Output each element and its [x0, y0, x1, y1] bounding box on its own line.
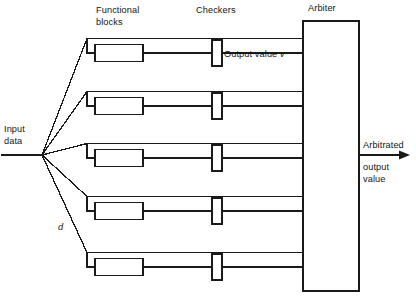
checker-4 — [212, 198, 222, 224]
arbiter-box — [303, 21, 359, 291]
functional-block-3 — [95, 150, 143, 167]
output-arrowhead — [399, 150, 410, 159]
checker-5 — [212, 254, 222, 280]
label-arbitrated: Arbitrated — [363, 140, 404, 152]
fanout-line-1 — [42, 39, 87, 156]
checker-2 — [212, 93, 222, 119]
checker-1 — [212, 40, 222, 66]
label-output-value: Output value v — [224, 49, 285, 61]
functional-block-4 — [95, 203, 143, 220]
label-distance-d: d — [58, 222, 63, 234]
fanout-line-5 — [42, 155, 87, 253]
functional-block-5 — [95, 259, 143, 276]
output-value-symbol: v — [280, 49, 285, 59]
output-value-text: Output value — [224, 49, 280, 59]
diagram-svg — [0, 0, 416, 304]
functional-block-1 — [95, 45, 143, 62]
arbitrated-output-line: output — [363, 162, 389, 172]
functional-block-2 — [95, 98, 143, 115]
figure-canvas: Functional blocks Checkers Arbiter Input… — [0, 0, 416, 304]
label-input-data: Input data — [4, 124, 25, 147]
label-checkers: Checkers — [196, 5, 236, 17]
label-functional-blocks: Functional blocks — [96, 5, 139, 28]
label-arbiter: Arbiter — [308, 3, 336, 15]
arbitrated-value-line: value — [363, 174, 385, 184]
label-arbitrated-output-value: outputvalue — [363, 162, 389, 185]
checker-3 — [212, 145, 222, 171]
fanout-line-4 — [42, 155, 87, 197]
